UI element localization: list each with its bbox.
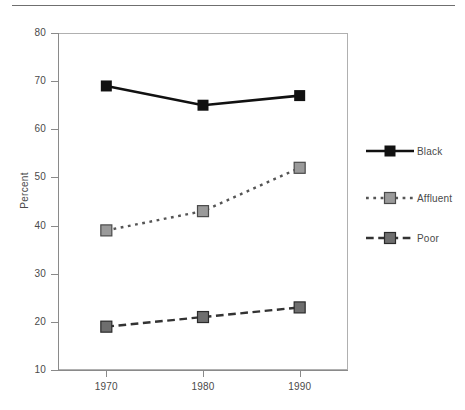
series-affluent (101, 162, 305, 236)
x-tick-1970 (106, 370, 107, 377)
legend-line-icon (366, 190, 414, 206)
legend-label-black: Black (414, 146, 442, 157)
legend-swatch-poor (366, 230, 414, 246)
legend-marker-icon (385, 146, 396, 157)
x-tick-1990 (300, 370, 301, 377)
legend-item-affluent[interactable]: Affluent (366, 187, 452, 209)
y-tick-label-40: 40 (10, 221, 46, 231)
x-tick-label-1970: 1970 (81, 381, 131, 392)
y-tick-label-30: 30 (10, 269, 46, 279)
legend-swatch-black (366, 143, 414, 159)
y-tick-label-60: 60 (10, 124, 46, 134)
legend-label-affluent: Affluent (414, 193, 452, 204)
x-tick-1980 (203, 370, 204, 377)
legend-item-black[interactable]: Black (366, 140, 442, 162)
legend-line-icon (366, 230, 414, 246)
legend-label-poor: Poor (414, 233, 439, 244)
data-point-affluent-1980 (198, 206, 209, 217)
data-point-poor-1980 (198, 312, 209, 323)
data-point-poor-1970 (101, 321, 112, 332)
data-point-black-1980 (198, 100, 209, 111)
y-tick-label-20: 20 (10, 317, 46, 327)
series-line-affluent (106, 168, 299, 231)
series-black (101, 80, 305, 110)
series-plot (58, 33, 348, 370)
header-rule (12, 5, 455, 6)
y-tick-label-80: 80 (10, 28, 46, 38)
legend-swatch-affluent (366, 190, 414, 206)
data-point-black-1970 (101, 80, 112, 91)
x-tick-label-1990: 1990 (275, 381, 325, 392)
data-point-affluent-1970 (101, 225, 112, 236)
x-tick-label-1980: 1980 (178, 381, 228, 392)
y-tick-label-10: 10 (10, 365, 46, 375)
legend-item-poor[interactable]: Poor (366, 227, 439, 249)
legend-marker-icon (385, 233, 396, 244)
y-axis-title: Percent (19, 161, 30, 221)
data-point-black-1990 (294, 90, 305, 101)
data-point-poor-1990 (294, 302, 305, 313)
legend-marker-icon (385, 193, 396, 204)
legend-line-icon (366, 143, 414, 159)
data-point-affluent-1990 (294, 162, 305, 173)
series-poor (101, 302, 305, 332)
y-tick-label-70: 70 (10, 76, 46, 86)
y-tick-10 (51, 370, 59, 371)
figure-container: 1020304050607080 197019801990 Percent Bl… (0, 0, 465, 410)
